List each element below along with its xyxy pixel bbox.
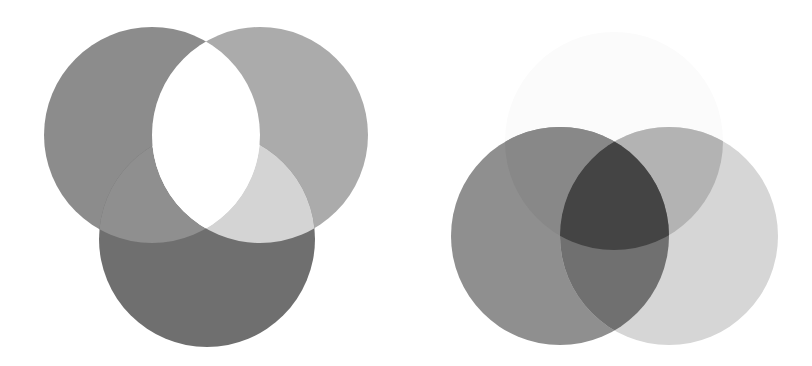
venn-diagrams-svg (0, 0, 812, 366)
venn-diagrams-canvas (0, 0, 812, 366)
additive-three-circle-venn (44, 27, 368, 347)
subtractive-three-circle-venn (451, 32, 778, 345)
